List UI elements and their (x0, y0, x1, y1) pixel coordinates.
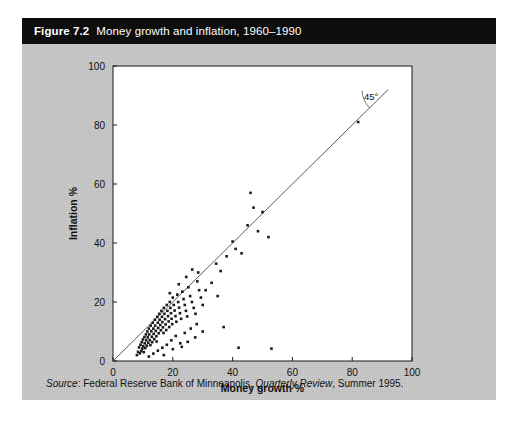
data-point (204, 289, 207, 292)
data-point (181, 290, 184, 293)
y-tick-label: 0 (99, 356, 105, 367)
data-point (191, 301, 194, 304)
data-point (156, 315, 159, 318)
data-point (161, 315, 164, 318)
page-title: Figure 7.2Money growth and inflation, 19… (22, 25, 301, 37)
source-organization: Federal Reserve Bank of Minneapolis, (83, 378, 255, 389)
y-axis-label: Inflation % (67, 186, 79, 240)
data-point (189, 295, 192, 298)
x-tick-label: 0 (110, 367, 116, 378)
data-point (173, 309, 176, 312)
data-point (196, 280, 199, 283)
figure-title-bar: Figure 7.2Money growth and inflation, 19… (22, 18, 496, 44)
data-point (246, 224, 249, 227)
data-point (157, 327, 160, 330)
data-point (177, 283, 180, 286)
data-point (172, 348, 175, 351)
data-point (149, 324, 152, 327)
data-point (187, 286, 190, 289)
data-point (145, 339, 148, 342)
data-point (157, 349, 160, 352)
data-point (143, 336, 146, 339)
data-point (270, 347, 273, 350)
data-point (158, 313, 161, 316)
data-point (169, 292, 172, 295)
data-point (161, 346, 164, 349)
data-point (147, 341, 150, 344)
data-point (155, 340, 158, 343)
data-point (176, 293, 179, 296)
data-point (166, 343, 169, 346)
data-point (201, 304, 204, 307)
data-point (198, 289, 201, 292)
data-point (194, 313, 197, 316)
data-point (215, 262, 218, 265)
data-point (162, 332, 165, 335)
data-point (166, 304, 169, 307)
data-point (222, 326, 225, 329)
data-point (142, 351, 145, 354)
data-point (180, 318, 183, 321)
data-point (168, 326, 171, 329)
data-point (157, 321, 160, 324)
data-point (167, 320, 170, 323)
data-point (163, 354, 166, 357)
x-tick-label: 80 (347, 367, 359, 378)
data-point (261, 211, 264, 214)
data-point (155, 335, 158, 338)
data-point (201, 330, 204, 333)
data-point (167, 315, 170, 318)
data-point (157, 332, 160, 335)
x-tick-label: 100 (404, 367, 421, 378)
data-point (160, 329, 163, 332)
data-point (162, 326, 165, 329)
data-point (195, 323, 198, 326)
data-point (140, 341, 143, 344)
data-point (175, 320, 178, 323)
data-point (234, 248, 237, 251)
data-point (164, 323, 167, 326)
data-point (163, 313, 166, 316)
data-point (189, 327, 192, 330)
figure-title: Money growth and inflation, 1960–1990 (96, 25, 301, 37)
data-point (210, 282, 213, 285)
x-tick-label: 20 (167, 367, 179, 378)
source-note: Source: Federal Reserve Bank of Minneapo… (46, 378, 403, 389)
data-point (194, 336, 197, 339)
data-point (249, 192, 252, 195)
data-point (145, 333, 148, 336)
y-tick-label: 100 (88, 61, 105, 72)
data-point (267, 236, 270, 239)
data-point (136, 354, 139, 357)
data-point (172, 296, 175, 299)
data-point (179, 312, 182, 315)
data-point (148, 333, 151, 336)
figure-container: Figure 7.2Money growth and inflation, 19… (0, 0, 516, 424)
data-point (186, 341, 189, 344)
y-tick-label: 80 (94, 120, 106, 131)
chart-panel: 020406080100020406080100Money growth %In… (22, 44, 496, 400)
data-point (161, 321, 164, 324)
figure-number: Figure 7.2 (34, 25, 89, 37)
data-point (240, 252, 243, 255)
data-point (146, 336, 149, 339)
data-point (180, 346, 183, 349)
data-point (139, 352, 142, 355)
data-point (165, 329, 168, 332)
data-point (145, 344, 148, 347)
data-point (182, 298, 185, 301)
angle-label-45: 45° (364, 91, 379, 102)
source-journal: Quarterly Review (256, 378, 333, 389)
data-point (257, 230, 260, 233)
data-point (170, 339, 173, 342)
data-point (197, 271, 200, 274)
data-point (200, 296, 203, 299)
data-point (216, 295, 219, 298)
data-point (177, 301, 180, 304)
data-point (160, 310, 163, 313)
data-point (159, 324, 162, 327)
data-point (169, 307, 172, 310)
data-point (166, 310, 169, 313)
data-point (252, 206, 255, 209)
data-point (183, 304, 186, 307)
